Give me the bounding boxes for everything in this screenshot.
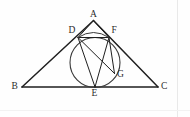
right-margin-rule (177, 0, 178, 117)
arc-DF-top (78, 33, 109, 38)
triangle-sides (22, 21, 158, 88)
chord-DG (78, 38, 115, 74)
chord-FG (109, 38, 115, 74)
chord-AF (94, 21, 110, 38)
vertex-label-D: D (69, 26, 76, 36)
vertex-label-G: G (117, 70, 124, 80)
bottom-margin-rule (0, 110, 190, 111)
side-AB (22, 21, 94, 88)
geometry-figure: A B C D E F G (0, 0, 190, 117)
vertex-label-E: E (92, 89, 98, 99)
vertex-label-C: C (161, 82, 167, 92)
chord-AD (78, 21, 94, 38)
chord-FE (95, 38, 109, 88)
vertex-label-F: F (112, 26, 117, 36)
chord-DE (78, 38, 95, 88)
vertex-label-B: B (12, 82, 18, 92)
vertex-label-A: A (90, 10, 97, 20)
